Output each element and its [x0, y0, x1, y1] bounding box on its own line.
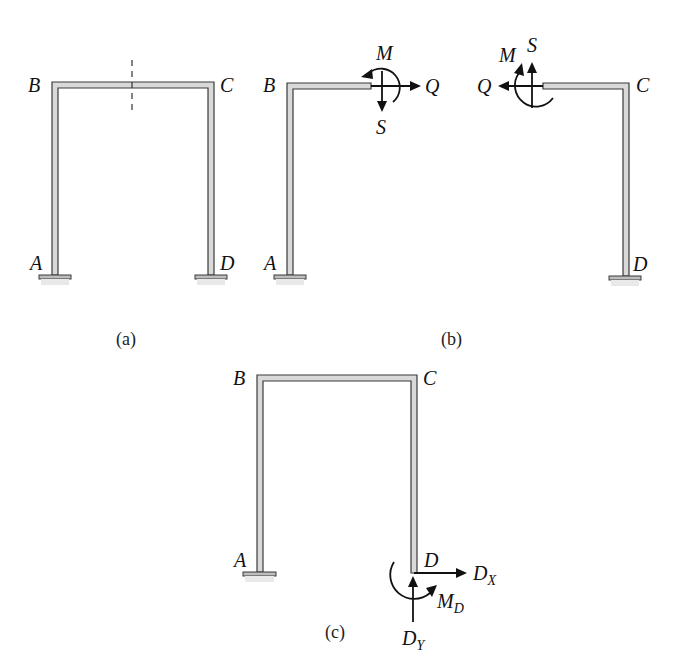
joint-label-a: A: [232, 549, 247, 571]
panel-caption-b: (b): [441, 329, 462, 350]
frame-member: [257, 375, 417, 573]
ground-hatch-a: [276, 279, 304, 285]
joint-label-b: B: [233, 367, 245, 389]
moment-arc: [515, 73, 553, 107]
panel-caption-c: (c): [325, 622, 345, 643]
joint-label-b: B: [28, 74, 40, 96]
frame-member-right: [543, 83, 629, 276]
fixed-support-d: [609, 276, 641, 280]
fixed-support-a: [274, 275, 306, 279]
ground-hatch-a: [41, 279, 69, 285]
joint-label-d: D: [423, 549, 439, 571]
reaction-dx-label: DX: [472, 562, 496, 588]
moment-label: M: [498, 44, 517, 66]
arrowhead-icon: [408, 576, 418, 587]
joint-label-c: C: [636, 74, 650, 96]
shear-force-label: S: [376, 116, 386, 138]
joint-label-c: C: [423, 367, 437, 389]
arrowhead-icon: [498, 81, 509, 91]
reaction-md-label: MD: [436, 590, 464, 616]
joint-label-a: A: [262, 252, 277, 274]
panel-c: B C A D DX MD DY (c): [232, 367, 496, 653]
panel-a: B C A D (a): [28, 60, 235, 350]
frame-member-left: [287, 83, 371, 275]
ground-hatch-d: [197, 279, 225, 285]
arrowhead-icon: [527, 62, 537, 73]
joint-label-b: B: [263, 74, 275, 96]
joint-label-a: A: [28, 252, 43, 274]
frame-member: [52, 82, 214, 275]
joint-label-d: D: [219, 252, 235, 274]
panel-b-left: B A M Q S: [262, 42, 440, 285]
joint-label-c: C: [220, 74, 234, 96]
shear-force-label: S: [527, 34, 537, 56]
frame-diagram: B C A D (a) B A M Q S: [0, 0, 683, 669]
fixed-support-a: [39, 275, 71, 279]
panel-caption-a: (a): [116, 329, 136, 350]
arrowhead-icon: [456, 568, 467, 578]
arrowhead-icon: [361, 69, 373, 79]
reaction-dy-label: DY: [401, 627, 426, 653]
arrowhead-icon: [377, 101, 387, 112]
axial-force-label: Q: [425, 75, 440, 97]
axial-force-label: Q: [477, 75, 492, 97]
fixed-support-d: [195, 275, 227, 279]
ground-hatch-d: [611, 280, 639, 286]
ground-hatch-a: [245, 576, 274, 582]
joint-label-d: D: [632, 253, 648, 275]
panel-b-right: C D M S Q (b): [441, 34, 650, 350]
fixed-support-a: [243, 572, 276, 576]
moment-label: M: [375, 42, 394, 64]
arrowhead-icon: [410, 81, 421, 91]
